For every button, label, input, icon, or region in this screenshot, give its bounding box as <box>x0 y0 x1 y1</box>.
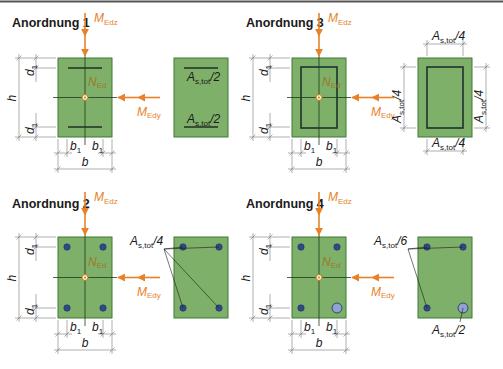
label-As-left-wrap: As,tot/4 <box>390 90 406 124</box>
label-As-bottom: As,tot/4 <box>431 136 465 152</box>
rebar-dot <box>100 305 106 311</box>
label-N-Ed-main: N <box>88 255 97 269</box>
label-As-left-sub: s,tot <box>397 99 406 115</box>
label-As-corners-main: A <box>129 234 138 248</box>
dim-label-b1: b1 <box>326 139 338 155</box>
label-As-corners-sub: s,tot <box>138 241 154 250</box>
label-N-Ed-sub: Ed <box>97 81 107 90</box>
reinforcement-detail-section <box>418 58 472 137</box>
label-N-Ed-sub: Ed <box>331 81 341 90</box>
label-As-right-suffix: /4 <box>472 90 486 101</box>
label-As-top-sub: s,tot <box>195 77 211 86</box>
label-M-Edy-main: M <box>137 105 147 119</box>
panel-anordnung-3: Anordnung 3NEdMEdzMEdyhd1d1b1b1bAs,tot/4… <box>239 11 490 173</box>
label-As-corners: As,tot/4 <box>129 234 163 250</box>
label-As-six-sub: s,tot <box>382 241 398 250</box>
panel-title: Anordnung 1 <box>12 16 90 30</box>
label-M-Edz: MEdz <box>328 190 352 206</box>
label-M-Edz-main: M <box>94 190 104 204</box>
label-M-Edy: MEdy <box>137 105 161 121</box>
panel-title: Anordnung 4 <box>246 197 324 211</box>
label-N-Ed-main: N <box>88 75 97 89</box>
label-M-Edz-sub: Edz <box>104 197 118 206</box>
dim-label-d1: d1 <box>257 243 273 255</box>
label-As-bottom-main: A <box>431 136 440 150</box>
rebar-dot <box>298 305 304 311</box>
panel-title: Anordnung 2 <box>12 197 90 211</box>
label-M-Edy-sub: Edy <box>147 111 161 120</box>
dim-label-h: h <box>5 275 19 282</box>
label-N-Ed-main: N <box>322 255 331 269</box>
rebar-dot <box>64 244 70 250</box>
label-M-Edz-main: M <box>328 11 338 25</box>
dim-label-h: h <box>239 275 253 282</box>
label-As-top-main: A <box>186 70 195 84</box>
label-As-half-main: A <box>431 323 440 337</box>
dim-label-b1: b1 <box>92 139 104 155</box>
label-As-bottom-sub: s,tot <box>440 143 456 152</box>
rebar-dot <box>64 305 70 311</box>
label-M-Edz-main: M <box>328 190 338 204</box>
label-As-six-suffix: /6 <box>396 234 407 248</box>
rebar-dot <box>100 244 106 250</box>
dim-label-d1: d1 <box>23 243 39 255</box>
axial-force-dot <box>318 277 320 279</box>
label-As-top: As,tot/4 <box>431 29 465 45</box>
reinforcement-arrangements-diagram: Anordnung 1NEdMEdzMEdyhd1d1b1b1bAs,tot/2… <box>0 0 503 369</box>
label-As-bottom-suffix: /2 <box>209 112 220 126</box>
label-As-right-wrap: As,tot/4 <box>472 90 488 124</box>
label-M-Edy: MEdy <box>137 285 161 301</box>
label-M-Edy-main: M <box>371 285 381 299</box>
dim-label-b: b <box>316 155 323 169</box>
dim-label-b1: b1 <box>92 320 104 336</box>
dim-label-d1: d1 <box>23 303 39 315</box>
dim-label-d1: d1 <box>257 303 273 315</box>
label-As-right: As,tot/4 <box>472 90 488 124</box>
label-M-Edz-sub: Edz <box>338 18 352 27</box>
dim-label-b1: b1 <box>70 320 82 336</box>
label-As-corners-suffix: /4 <box>152 234 163 248</box>
label-M-Edy-main: M <box>137 285 147 299</box>
label-As-bottom-sub: s,tot <box>195 119 211 128</box>
label-As-top-main: A <box>431 29 440 43</box>
dim-label-b1: b1 <box>326 320 338 336</box>
label-M-Edz: MEdz <box>94 11 118 27</box>
dim-label-d1: d1 <box>257 122 273 134</box>
label-N-Ed-sub: Ed <box>331 261 341 270</box>
dim-label-b1: b1 <box>304 320 316 336</box>
axial-force-dot <box>84 97 86 99</box>
label-As-top-sub: s,tot <box>440 36 456 45</box>
label-As-top-suffix: /4 <box>454 29 465 43</box>
axial-force-dot <box>318 97 320 99</box>
dim-label-b1: b1 <box>70 139 82 155</box>
label-M-Edy: MEdy <box>371 285 395 301</box>
label-As-bottom-suffix: /4 <box>454 136 465 150</box>
label-N-Ed-sub: Ed <box>97 261 107 270</box>
label-As-right-sub: s,tot <box>479 99 488 115</box>
label-As-half: As,tot/2 <box>431 323 465 339</box>
rebar-dot <box>298 244 304 250</box>
label-M-Edy-sub: Edy <box>381 291 395 300</box>
panel-anordnung-4: Anordnung 4NEdMEdzMEdyhd1d1b1b1bAs,tot/6… <box>239 190 472 354</box>
label-M-Edz: MEdz <box>328 11 352 27</box>
label-M-Edz-sub: Edz <box>338 197 352 206</box>
label-M-Edz-sub: Edz <box>104 18 118 27</box>
label-N-Ed-main: N <box>322 75 331 89</box>
dim-label-h: h <box>5 95 19 102</box>
label-As-half-suffix: /2 <box>454 323 465 337</box>
rebar-dot <box>334 244 340 250</box>
panel-title: Anordnung 3 <box>246 16 324 30</box>
label-As-left: As,tot/4 <box>390 90 406 124</box>
label-As-bottom-main: A <box>186 112 195 126</box>
label-M-Edy-main: M <box>371 105 381 119</box>
dim-label-b: b <box>82 336 89 350</box>
dim-label-d1: d1 <box>23 64 39 76</box>
label-M-Edz: MEdz <box>94 190 118 206</box>
dim-label-d1: d1 <box>257 64 273 76</box>
label-As-six-main: A <box>373 234 382 248</box>
label-As-right-main: A <box>472 115 486 124</box>
dim-label-b: b <box>82 155 89 169</box>
dim-label-d1: d1 <box>23 122 39 134</box>
label-As-half-sub: s,tot <box>440 330 456 339</box>
label-As-six: As,tot/6 <box>373 234 407 250</box>
